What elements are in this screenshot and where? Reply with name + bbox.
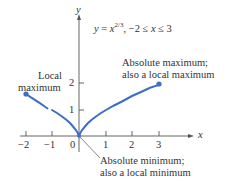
annotation-line: Absolute minimum; <box>100 155 191 167</box>
x-tick-label: 0 <box>70 140 75 151</box>
annotation-line: also a local maximum <box>122 69 214 81</box>
curve-left-segment-a <box>26 94 48 109</box>
x-tick-label: 2 <box>129 140 134 151</box>
title-domain-start: , −2 ≤ <box>123 23 150 34</box>
abs-min-leader-line <box>80 137 100 158</box>
annotation-line: Absolute maximum; <box>122 57 214 69</box>
x-axis-arrow-icon <box>188 134 194 138</box>
annotation-local-maximum: Local <box>38 70 62 82</box>
y-tick-label: 1 <box>69 105 74 116</box>
x-tick-label: 3 <box>156 140 161 151</box>
annotation-absolute-minimum: Absolute minimum; also a local minimum <box>100 155 191 179</box>
x-tick-label: −1 <box>44 140 55 151</box>
y-tick-label: 2 <box>69 78 74 89</box>
y-axis-label: y <box>76 5 81 16</box>
x-tick-label: −2 <box>18 140 29 151</box>
title-equals: = <box>99 23 110 34</box>
curve-right-branch <box>79 85 159 136</box>
annotation-line: Local <box>38 70 62 82</box>
x-tick-label: 1 <box>103 140 108 151</box>
chart-figure: y = x2/3, −2 ≤ x ≤ 3 y x −2 −1 0 1 2 3 1… <box>0 0 227 186</box>
title-domain-end: ≤ 3 <box>156 23 172 34</box>
x-ticks <box>26 131 159 136</box>
x-axis-label: x <box>198 130 203 141</box>
annotation-absolute-maximum: Absolute maximum; also a local maximum <box>122 57 214 81</box>
annotation-local-maximum-line2: maximum <box>18 82 61 94</box>
annotation-line: also a local minimum <box>100 167 191 179</box>
point-absolute-maximum <box>156 81 161 86</box>
chart-title: y = x2/3, −2 ≤ x ≤ 3 <box>94 22 172 35</box>
y-ticks <box>79 83 84 110</box>
curve-left-segment-b <box>52 110 79 136</box>
